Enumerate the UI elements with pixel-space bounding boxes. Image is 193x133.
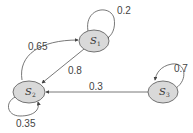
edge-label-s3-s3: 0.7 xyxy=(174,63,188,74)
state-diagram: 0.2 0.65 0.8 0.3 0.7 0.35 S 1 S 2 S xyxy=(0,0,193,133)
edge-label-s2-s1: 0.65 xyxy=(28,41,48,52)
svg-text:S: S xyxy=(90,35,97,46)
edge-label-s2-s2: 0.35 xyxy=(16,118,36,129)
edge-s3-to-s2: 0.3 xyxy=(46,81,148,92)
node-s3: S 3 xyxy=(148,81,178,103)
svg-text:S: S xyxy=(25,86,32,97)
node-s2: S 2 xyxy=(13,81,45,103)
edge-label-s3-s2: 0.3 xyxy=(89,81,103,92)
edge-label-s1-s2: 0.8 xyxy=(68,65,82,76)
edge-label-s1-s1: 0.2 xyxy=(117,5,131,16)
edge-s1-to-s2: 0.8 xyxy=(42,49,84,83)
svg-text:S: S xyxy=(159,86,166,97)
svg-text:2: 2 xyxy=(32,91,36,98)
svg-text:1: 1 xyxy=(97,40,101,47)
node-s1: S 1 xyxy=(79,30,109,52)
svg-text:3: 3 xyxy=(166,91,170,98)
